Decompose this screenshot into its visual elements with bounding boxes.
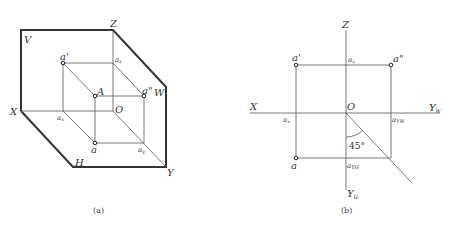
label-v: V	[24, 34, 33, 45]
label-a-double-prime: a"	[393, 53, 404, 64]
figure-a: V Z X O W H Y A a' a" a az ax ay (a)	[9, 18, 175, 215]
caption-a: (a)	[93, 206, 104, 215]
label-a: a	[91, 144, 97, 155]
label-angle: 45°	[349, 141, 365, 151]
label-a-prime: a'	[292, 52, 301, 63]
label-h: H	[74, 157, 84, 168]
label-ax: ax	[283, 116, 290, 124]
figure-b: Z X O YW YH a' a" a az ax aYW aYH 45° (b…	[249, 19, 442, 215]
label-yw: YW	[429, 102, 442, 114]
point-a-prime	[294, 63, 298, 67]
label-o: O	[347, 101, 355, 112]
label-ayh: aYH	[347, 162, 359, 170]
caption-b: (b)	[341, 206, 352, 215]
label-A: A	[96, 86, 104, 97]
axis-oy	[113, 111, 166, 167]
label-az: az	[348, 56, 355, 64]
label-ayw: aYW	[392, 116, 405, 124]
label-a-prime: a'	[60, 51, 69, 62]
label-a: a	[291, 160, 297, 171]
label-ax: ax	[57, 114, 64, 122]
label-o: O	[115, 104, 123, 115]
label-a-double-prime: a"	[142, 85, 153, 96]
label-yh: YH	[347, 188, 359, 200]
label-z: Z	[341, 19, 350, 30]
angle-arc	[346, 130, 363, 137]
label-z: Z	[109, 18, 118, 29]
label-x: X	[249, 101, 258, 112]
label-y: Y	[167, 167, 175, 178]
proj-line	[63, 111, 95, 143]
label-az: az	[115, 56, 122, 64]
proj-line	[63, 63, 95, 96]
label-ay: ay	[138, 146, 145, 155]
label-x: X	[9, 106, 18, 117]
proj-line	[113, 63, 144, 96]
projection-diagram: V Z X O W H Y A a' a" a az ax ay (a) Z X	[0, 0, 449, 225]
label-w: W	[154, 87, 165, 98]
